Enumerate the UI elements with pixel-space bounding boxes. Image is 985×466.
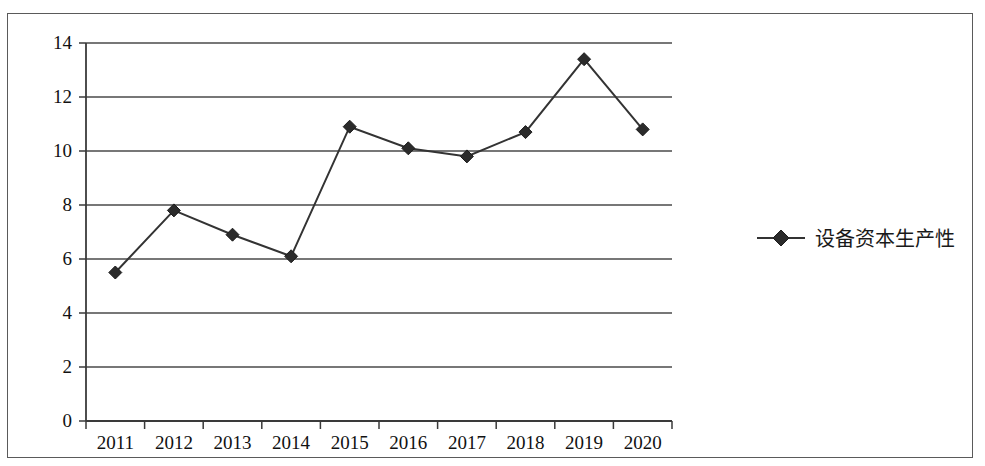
y-axis-tick-label: 14 <box>53 32 73 53</box>
y-axis-ticks-group <box>79 43 86 421</box>
data-point-marker <box>343 120 356 133</box>
diamond-marker-icon <box>773 230 789 246</box>
legend-label: 设备资本生产性 <box>815 227 955 251</box>
y-axis-tick-label: 8 <box>63 194 73 215</box>
y-axis-tick-label: 4 <box>63 302 73 323</box>
x-axis-tick-label: 2012 <box>155 432 193 453</box>
x-axis-tick-label: 2015 <box>331 432 369 453</box>
y-axis-tick-label: 10 <box>53 140 72 161</box>
x-axis-labels-group: 2011201220132014201520162017201820192020 <box>97 432 662 453</box>
y-axis-tick-label: 0 <box>63 410 73 431</box>
data-point-marker <box>285 250 298 263</box>
data-point-marker <box>402 142 415 155</box>
x-axis-tick-label: 2020 <box>624 432 662 453</box>
series-markers-group <box>109 53 649 279</box>
x-axis-tick-label: 2013 <box>214 432 252 453</box>
x-axis-tick-label: 2019 <box>565 432 603 453</box>
x-axis-tick-label: 2016 <box>389 432 427 453</box>
data-point-marker <box>226 228 239 241</box>
x-axis-tick-label: 2017 <box>448 432 486 453</box>
y-axis-tick-label: 2 <box>63 356 73 377</box>
data-point-marker <box>460 150 473 163</box>
chart-legend: 设备资本生产性 <box>757 227 955 251</box>
x-axis-ticks-group <box>86 421 672 429</box>
line-chart: 02468101214 2011201220132014201520162017… <box>0 0 985 466</box>
x-axis-tick-label: 2014 <box>272 432 311 453</box>
x-axis-tick-label: 2011 <box>97 432 134 453</box>
series-line-equipment-capital-productivity <box>115 59 642 272</box>
y-axis-tick-label: 12 <box>53 86 72 107</box>
x-axis-tick-label: 2018 <box>507 432 545 453</box>
y-axis-tick-label: 6 <box>63 248 73 269</box>
y-axis-labels-group: 02468101214 <box>53 32 73 431</box>
chart-svg: 02468101214 2011201220132014201520162017… <box>0 0 985 466</box>
chart-figure: 02468101214 2011201220132014201520162017… <box>0 0 985 466</box>
